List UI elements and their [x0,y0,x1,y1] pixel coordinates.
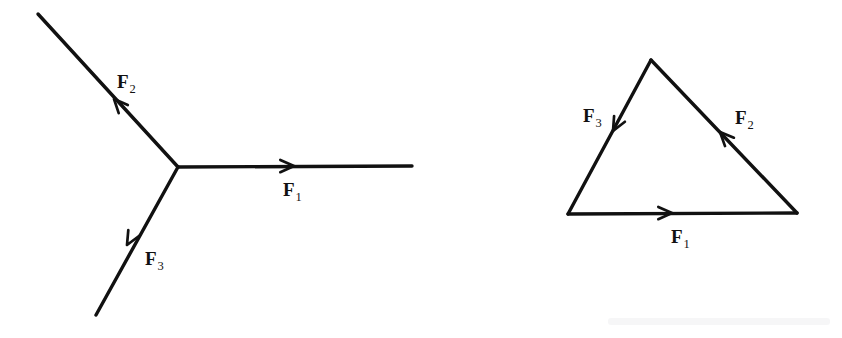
vector-f1-concurrent-subscript: 1 [296,190,302,204]
vector-f3-concurrent-subscript: 3 [158,259,164,273]
figure-background [0,0,842,338]
vector-f3-triangle-subscript: 3 [596,116,602,130]
vector-f1-triangle-subscript: 1 [684,237,690,251]
vector-f2-concurrent-subscript: 2 [130,82,136,96]
vector-f1-triangle-shaft [568,213,797,214]
force-diagram-figure: F1F2F3 F1F2F3 [0,0,842,338]
scan-artifact [608,318,830,325]
force-diagram-canvas: F1F2F3 F1F2F3 [0,0,842,338]
vector-f2-triangle-subscript: 2 [748,118,754,132]
